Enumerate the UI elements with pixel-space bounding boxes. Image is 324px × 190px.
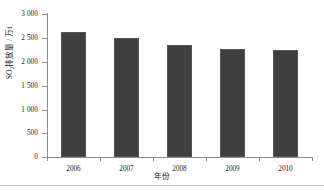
x-axis-tick <box>312 157 313 161</box>
y-axis-tick-label: 1 500 <box>21 83 38 90</box>
bar-2010 <box>273 50 298 157</box>
x-axis-tick <box>153 157 154 161</box>
x-axis-tick <box>259 157 260 161</box>
y-axis-tick-label: 500 <box>27 130 38 137</box>
bottom-divider <box>0 185 324 186</box>
y-axis-tick-label: 3 000 <box>21 11 38 18</box>
y-axis-tick-label: 1 000 <box>21 107 38 114</box>
x-axis-tick <box>100 157 101 161</box>
y-axis-tick-label: 2 000 <box>21 59 38 66</box>
x-axis-line <box>47 157 313 158</box>
bar-2009 <box>220 49 245 157</box>
bar-2006 <box>61 32 86 157</box>
y-axis-title-suffix: 排放量 / 万t <box>5 27 14 67</box>
plot-area <box>47 14 312 157</box>
y-axis-title: SO2排放量 / 万t <box>5 0 15 113</box>
x-axis-tick <box>47 157 48 161</box>
y-axis-title-subscript: 2 <box>9 67 15 70</box>
y-axis-title-prefix: SO <box>5 70 14 80</box>
bar-chart-figure: 3 000 2 500 2 000 1 500 1 000 500 0 SO2排… <box>0 0 324 190</box>
bar-2007 <box>114 38 139 157</box>
x-axis-title: 年份 <box>0 172 324 181</box>
y-axis-tick-label: 0 <box>34 154 38 161</box>
y-axis-tick-label: 2 500 <box>21 35 38 42</box>
x-axis-tick <box>206 157 207 161</box>
bar-2008 <box>167 45 192 157</box>
